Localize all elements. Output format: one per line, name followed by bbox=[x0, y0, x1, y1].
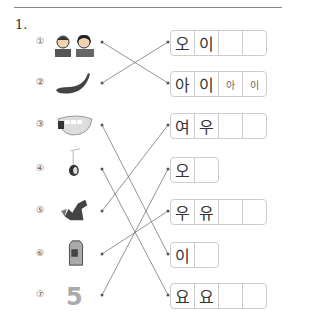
blank-cell[interactable] bbox=[243, 284, 266, 308]
item-label-3: ③ bbox=[36, 119, 44, 129]
cucumber-icon bbox=[52, 68, 100, 96]
item-label-2: ② bbox=[36, 77, 44, 87]
cell: 유 bbox=[195, 200, 219, 224]
cell: 요 bbox=[171, 284, 195, 308]
teeth-icon bbox=[52, 113, 100, 141]
answer-box-3: 여 우 bbox=[170, 113, 267, 139]
boy-and-girl-icon bbox=[52, 30, 100, 58]
item-label-4: ④ bbox=[36, 163, 44, 173]
cell: 이 bbox=[171, 243, 195, 267]
number-five: 5 bbox=[52, 283, 100, 311]
fox-icon bbox=[52, 196, 100, 224]
blank-cell[interactable] bbox=[219, 284, 243, 308]
blank-cell[interactable] bbox=[243, 31, 266, 55]
blank-cell[interactable] bbox=[219, 200, 243, 224]
answer-box-1: 오 이 bbox=[170, 30, 267, 56]
blank-cell[interactable] bbox=[219, 31, 243, 55]
cell: 오 bbox=[171, 158, 195, 182]
answer-box-2: 아 이 아 이 bbox=[170, 71, 267, 97]
blank-cell[interactable] bbox=[243, 200, 266, 224]
trace-cell[interactable]: 아 bbox=[219, 72, 243, 96]
cell: 아 bbox=[171, 72, 195, 96]
answer-box-5: 우 유 bbox=[170, 199, 267, 225]
answer-box-7: 요 요 bbox=[170, 283, 267, 309]
item-label-1: ① bbox=[36, 36, 44, 46]
cell: 오 bbox=[171, 31, 195, 55]
blank-cell[interactable] bbox=[243, 114, 266, 138]
cell: 이 bbox=[195, 72, 219, 96]
cell: 우 bbox=[195, 114, 219, 138]
blank-cell[interactable] bbox=[195, 243, 218, 267]
cell: 여 bbox=[171, 114, 195, 138]
trace-cell[interactable]: 이 bbox=[243, 72, 266, 96]
cell: 요 bbox=[195, 284, 219, 308]
answer-box-4: 오 bbox=[170, 157, 219, 183]
blank-cell[interactable] bbox=[195, 158, 218, 182]
answer-box-6: 이 bbox=[170, 242, 219, 268]
item-label-5: ⑤ bbox=[36, 205, 44, 215]
cell: 이 bbox=[195, 31, 219, 55]
blank-cell[interactable] bbox=[219, 114, 243, 138]
item-label-6: ⑥ bbox=[36, 248, 44, 258]
milk-carton-icon bbox=[52, 239, 100, 267]
item-label-7: ⑦ bbox=[36, 289, 44, 299]
yoyo-icon bbox=[52, 148, 100, 176]
cell: 우 bbox=[171, 200, 195, 224]
